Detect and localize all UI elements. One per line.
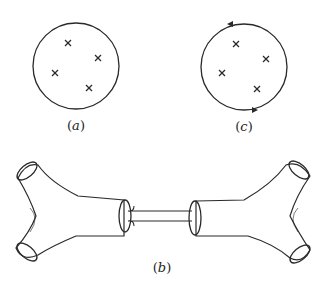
left-pants-surface [14,159,131,265]
crosses-a [52,40,101,91]
diagram-canvas: (a) (c) [0,0,328,290]
right-pants-surface [189,158,313,267]
cross-marker [86,85,92,91]
right-pants-opening-bottom [287,242,313,267]
label-b: (b) [153,260,171,275]
cross-marker [263,56,269,62]
label-a: (a) [67,118,85,133]
cross-marker [95,55,101,61]
right-pants-opening-top [286,158,312,183]
crosses-c [219,41,269,92]
cross-marker [254,86,260,92]
right-pants-opening-left [189,201,201,235]
circle-c-contour [201,24,287,110]
panel-c: (c) [201,21,287,134]
cross-marker [52,70,58,76]
connecting-tube [128,206,192,226]
left-pants-opening-right [119,200,131,232]
panel-b: (b) [14,158,313,275]
cross-marker [219,70,225,76]
left-pants-opening-top [14,159,40,184]
circle-a [33,23,119,109]
cross-marker [233,41,239,47]
label-c: (c) [235,119,252,134]
cross-marker [65,40,71,46]
panel-a: (a) [33,23,119,133]
